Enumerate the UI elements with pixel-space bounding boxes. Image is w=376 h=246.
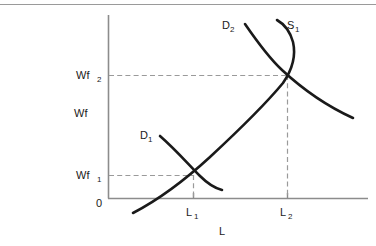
svg-text:D: D bbox=[140, 129, 148, 141]
svg-text:1: 1 bbox=[97, 175, 102, 184]
curve-label-d2: D 2 bbox=[222, 19, 235, 34]
x-axis-label: L bbox=[219, 225, 225, 237]
svg-text:1: 1 bbox=[295, 25, 300, 34]
y-tick-label-wf2: Wf 2 bbox=[76, 69, 102, 84]
labour-market-diagram: 0 Wf L Wf 2 Wf 1 L 1 L 2 bbox=[0, 0, 376, 246]
svg-text:L: L bbox=[280, 206, 286, 218]
x-tick-labels-group: L 1 L 2 bbox=[186, 206, 293, 221]
dashed-guides-group bbox=[109, 75, 288, 198]
supply-curve-1-path bbox=[133, 20, 294, 213]
svg-text:2: 2 bbox=[97, 75, 102, 84]
demand-curve-1-path bbox=[160, 136, 222, 190]
y-axis-label: Wf bbox=[74, 107, 88, 119]
curves-group bbox=[133, 20, 353, 213]
svg-text:L: L bbox=[186, 206, 192, 218]
demand-curve-2-path bbox=[245, 24, 353, 118]
curve-labels-group: D 1 D 2 S 1 bbox=[140, 19, 300, 144]
svg-text:Wf: Wf bbox=[76, 169, 90, 181]
svg-text:2: 2 bbox=[230, 25, 235, 34]
svg-text:Wf: Wf bbox=[76, 69, 90, 81]
svg-text:S: S bbox=[287, 19, 294, 31]
y-tick-labels-group: Wf 2 Wf 1 bbox=[76, 69, 102, 184]
svg-text:1: 1 bbox=[194, 212, 199, 221]
axis-labels-group: 0 Wf L bbox=[74, 107, 225, 237]
curve-label-d1: D 1 bbox=[140, 129, 153, 144]
origin-label: 0 bbox=[96, 197, 102, 209]
y-tick-label-wf1: Wf 1 bbox=[76, 169, 102, 184]
x-tick-label-l2: L 2 bbox=[280, 206, 293, 221]
x-axis-ticks bbox=[194, 193, 288, 199]
svg-text:2: 2 bbox=[288, 212, 293, 221]
svg-text:1: 1 bbox=[148, 135, 153, 144]
x-tick-label-l1: L 1 bbox=[186, 206, 199, 221]
figure-container: 0 Wf L Wf 2 Wf 1 L 1 L 2 bbox=[0, 0, 376, 246]
svg-text:D: D bbox=[222, 19, 230, 31]
